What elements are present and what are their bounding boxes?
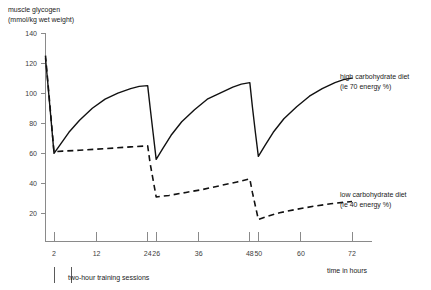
x-tick-label-50: 50 xyxy=(254,250,262,257)
y-tick-label-60: 60 xyxy=(29,150,37,157)
x-axis-title: time in hours xyxy=(327,267,368,274)
y-axis-ticks: 20406080100120140 xyxy=(25,30,45,218)
high-carb-label-line1: high carbohydrate diet xyxy=(340,73,409,81)
low-carb-label-line2: (ie 40 energy %) xyxy=(340,201,391,209)
training-sessions-note: two-hour training sessions xyxy=(68,274,150,282)
y-axis-title-line2: (mmol/kg wet weight) xyxy=(8,16,74,24)
x-tick-label-26: 26 xyxy=(152,250,160,257)
series-line-low-carb xyxy=(46,56,353,220)
x-tick-label-24: 24 xyxy=(144,250,152,257)
x-tick-label-2: 2 xyxy=(52,250,56,257)
x-tick-label-72: 72 xyxy=(348,250,356,257)
x-tick-label-12: 12 xyxy=(93,250,101,257)
high-carb-label-line2: (ie 70 energy %) xyxy=(340,83,391,91)
y-tick-label-120: 120 xyxy=(25,60,37,67)
y-tick-label-100: 100 xyxy=(25,90,37,97)
series-layer xyxy=(46,56,353,220)
chart-svg: muscle glycogen (mmol/kg wet weight) 204… xyxy=(0,0,431,290)
y-tick-label-40: 40 xyxy=(29,180,37,187)
x-axis-ticks: 21224263648506072 xyxy=(52,232,356,257)
x-tick-label-48: 48 xyxy=(246,250,254,257)
y-tick-label-20: 20 xyxy=(29,210,37,217)
y-axis-title-line1: muscle glycogen xyxy=(8,6,60,14)
low-carb-label-line1: low carbohydrate diet xyxy=(340,191,407,199)
series-line-high-carb xyxy=(46,59,353,160)
x-tick-label-60: 60 xyxy=(297,250,305,257)
y-tick-label-80: 80 xyxy=(29,120,37,127)
glycogen-chart: muscle glycogen (mmol/kg wet weight) 204… xyxy=(0,0,431,290)
y-tick-label-140: 140 xyxy=(25,30,37,37)
x-tick-label-36: 36 xyxy=(195,250,203,257)
